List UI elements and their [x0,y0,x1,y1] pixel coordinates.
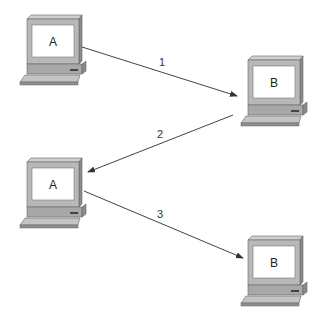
computer-icon [20,15,86,85]
arrow-1 [82,47,237,96]
arrow-1-label: 1 [159,56,165,68]
computer-label: B [270,256,278,270]
arrow-3 [84,191,243,258]
arrow-3-label: 3 [157,208,163,220]
computer-b-2: B [241,236,307,306]
computer-icon [20,158,86,228]
arrow-2-label: 2 [157,128,163,140]
computer-a-2: A [20,158,86,228]
computer-b-1: B [241,56,307,126]
arrow-2 [88,115,233,172]
computer-label: A [49,35,57,49]
computer-icon [241,236,307,306]
message-flow-diagram: A B A B 1 2 3 [0,0,322,317]
computer-label: B [270,76,278,90]
computer-icon [241,56,307,126]
computer-a-1: A [20,15,86,85]
computer-label: A [49,178,57,192]
